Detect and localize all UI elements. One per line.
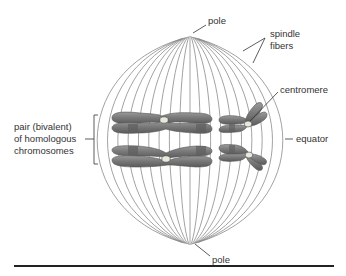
chromatid: [219, 116, 248, 125]
spindle-fiber: [198, 39, 272, 243]
bivalent-small: [219, 103, 267, 171]
spindle-fiber: [191, 36, 200, 244]
bivalent-label-line3: chromosomes: [14, 145, 74, 156]
pole-top-label: pole: [208, 15, 226, 26]
spindle-fiber: [180, 36, 189, 244]
spindle-fiber: [169, 37, 188, 245]
homolog-upper-small: [219, 103, 267, 133]
crossover-segment: [229, 145, 235, 154]
bivalent-label-line1: pair (bivalent): [14, 121, 72, 132]
crossover-segment: [128, 146, 138, 155]
spindle-fiber: [138, 38, 185, 244]
spindle-fiber: [149, 37, 186, 243]
crossover-segment: [128, 124, 138, 132]
equator-label: equator: [296, 133, 328, 144]
spindle-fiber: [194, 37, 231, 243]
centromere-label: centromere: [280, 84, 328, 95]
spindle-fiber: [97, 39, 181, 242]
spindle-fiber: [195, 38, 242, 244]
crossover-segment: [196, 124, 206, 132]
chromatid: [219, 154, 248, 162]
pole-bottom-label: pole: [212, 254, 230, 265]
crossover-segment: [196, 146, 206, 155]
spindle-fiber: [192, 37, 211, 245]
spindle-fibers-label-line1: spindle: [270, 28, 300, 39]
bivalent-large: [112, 112, 212, 167]
crossover-segment: [229, 124, 235, 132]
spindle-fibers-label-line2: fibers: [270, 40, 293, 51]
pole-bottom-leader: [195, 244, 210, 256]
bivalent-label-line2: of homologous: [14, 133, 77, 144]
centromere: [160, 117, 168, 123]
pole-top-leader: [193, 25, 206, 33]
centromere: [245, 152, 253, 158]
meiosis-spindle-diagram: pole spindle fibers centromere equator p…: [0, 0, 346, 276]
spindle-fiber: [199, 39, 283, 242]
spindle-fiber: [108, 39, 182, 243]
centromere: [162, 156, 170, 162]
homolog-lower-small: [219, 144, 267, 170]
spindle-fibers: [97, 36, 283, 245]
centromere: [244, 121, 252, 127]
